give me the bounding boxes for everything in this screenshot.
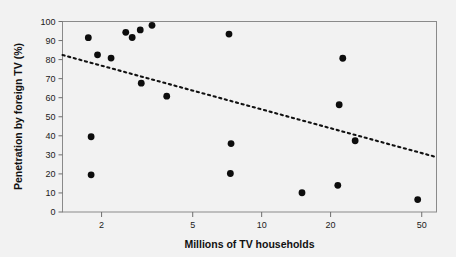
x-tick-label: 50 xyxy=(417,220,427,230)
data-point xyxy=(226,31,233,38)
y-tick-label: 0 xyxy=(50,207,55,217)
data-point xyxy=(339,55,346,62)
y-tick-label: 20 xyxy=(45,169,55,179)
y-tick-label: 50 xyxy=(45,112,55,122)
x-tick-label: 20 xyxy=(326,220,336,230)
data-point xyxy=(334,182,341,189)
y-tick-label: 90 xyxy=(45,36,55,46)
data-point xyxy=(122,29,129,36)
y-tick-label: 30 xyxy=(45,150,55,160)
data-point xyxy=(227,170,234,177)
data-point xyxy=(299,189,306,196)
y-tick-label: 10 xyxy=(45,188,55,198)
y-tick-label: 40 xyxy=(45,131,55,141)
data-point xyxy=(149,22,156,29)
data-point xyxy=(94,51,101,58)
plot-canvas: 0102030405060708090100 25102050 Millions… xyxy=(0,0,456,257)
data-point xyxy=(88,171,95,178)
data-point xyxy=(228,140,235,147)
x-tick-label: 5 xyxy=(190,220,195,230)
data-point xyxy=(352,137,359,144)
x-axis-title: Millions of TV households xyxy=(184,238,314,250)
data-point xyxy=(336,101,343,108)
y-tick-label: 70 xyxy=(45,74,55,84)
data-point xyxy=(129,34,136,41)
y-tick-label: 100 xyxy=(40,17,55,27)
figure-background xyxy=(0,0,456,257)
x-tick-label: 10 xyxy=(257,220,267,230)
y-tick-label: 60 xyxy=(45,93,55,103)
data-point xyxy=(137,26,144,33)
scatter-plot-figure: 0102030405060708090100 25102050 Millions… xyxy=(0,0,456,257)
data-point xyxy=(163,93,170,100)
data-point xyxy=(414,196,421,203)
y-axis-title: Penetration by foreign TV (%) xyxy=(12,43,24,190)
y-tick-label: 80 xyxy=(45,55,55,65)
data-point xyxy=(138,80,145,87)
data-point xyxy=(108,55,115,62)
data-point xyxy=(85,34,92,41)
data-point xyxy=(88,133,95,140)
x-tick-label: 2 xyxy=(99,220,104,230)
